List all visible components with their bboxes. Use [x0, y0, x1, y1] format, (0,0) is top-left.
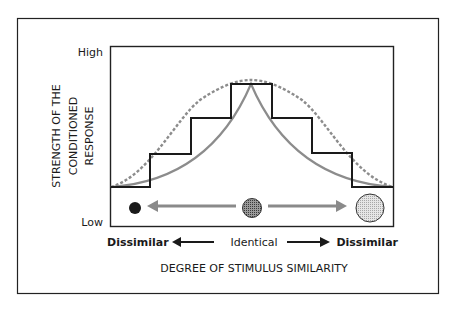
identical-stimulus-circle	[243, 199, 262, 218]
y-high-label: High	[78, 46, 103, 59]
left-gray-arrow	[147, 200, 236, 212]
dashed-gradient-curve	[111, 80, 393, 187]
large-stimulus-circle	[356, 194, 384, 222]
generalization-figure: High Low STRENGTH OF THE CONDITIONED RES…	[0, 0, 457, 313]
right-black-arrow	[287, 237, 330, 247]
x-right-label: Dissimilar	[336, 236, 398, 249]
y-axis-title-line-1: STRENGTH OF THE	[50, 84, 63, 188]
peaked-gradient-curve	[111, 84, 393, 187]
small-stimulus-circle	[129, 202, 141, 214]
x-center-label: Identical	[230, 236, 277, 249]
y-axis-title-line-3: RESPONSE	[83, 106, 96, 165]
x-axis-title: DEGREE OF STIMULUS SIMILARITY	[160, 262, 348, 275]
left-black-arrow	[172, 237, 214, 247]
step-generalization-line	[111, 84, 393, 187]
right-gray-arrow	[268, 200, 347, 212]
x-left-label: Dissimilar	[107, 236, 169, 249]
y-axis-title-line-2: CONDITIONED	[67, 97, 80, 176]
y-low-label: Low	[81, 216, 103, 229]
y-axis-title: STRENGTH OF THE CONDITIONED RESPONSE	[50, 84, 96, 188]
outer-frame	[18, 19, 439, 294]
